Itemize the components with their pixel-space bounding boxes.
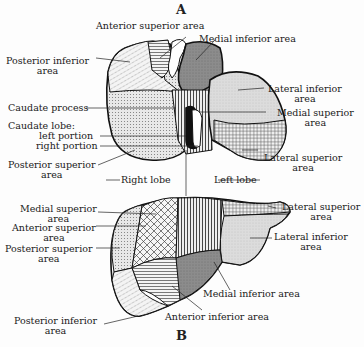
label-a-lateral-inferior: Lateral inferiorarea bbox=[268, 84, 342, 104]
label-b-medial-inferior: Medial inferior area bbox=[203, 289, 300, 299]
label-a-right-portion: right portion bbox=[36, 141, 98, 151]
label-left-lobe: Left lobe bbox=[214, 175, 257, 185]
view-a-liver bbox=[107, 39, 286, 160]
label-a-posterior-inferior: Posterior inferiorarea bbox=[6, 56, 89, 76]
label-a-medial-inferior: Medial inferior area bbox=[199, 34, 296, 44]
figure-letter-b: B bbox=[176, 328, 187, 343]
label-a-medial-superior: Medial superiorarea bbox=[277, 108, 354, 128]
label-right-lobe: Right lobe bbox=[121, 175, 171, 185]
label-b-medial-superior: Medial superiorarea bbox=[20, 204, 97, 224]
label-a-lateral-superior: Lateral superiorarea bbox=[264, 153, 342, 173]
label-b-anterior-inferior: Anterior inferior area bbox=[165, 312, 269, 322]
label-b-posterior-superior: Posterior superiorarea bbox=[5, 244, 92, 264]
figure-letter-a: A bbox=[176, 2, 186, 17]
label-b-lateral-inferior: Lateral inferiorarea bbox=[274, 232, 348, 252]
label-a-posterior-superior: Posterior superiorarea bbox=[8, 160, 95, 180]
label-b-posterior-inferior: Posterior inferiorarea bbox=[14, 316, 97, 336]
label-b-anterior-superior: Anterior superiorarea bbox=[12, 223, 96, 243]
label-a-anterior-superior: Anterior superior area bbox=[96, 21, 204, 31]
label-b-lateral-superior: Lateral superiorarea bbox=[282, 202, 360, 222]
label-a-caudate-process: Caudate process bbox=[8, 103, 88, 113]
liver-segments-diagram: A B Anterior superior area Medial inferi… bbox=[0, 0, 364, 347]
